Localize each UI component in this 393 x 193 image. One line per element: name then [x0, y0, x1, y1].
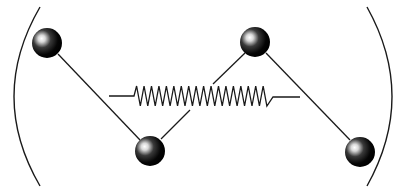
- sphere-3-icon: [240, 27, 270, 57]
- rod-2-spring: [161, 110, 190, 139]
- enclosing-brackets: [14, 7, 392, 186]
- mechanical-diagram: [0, 0, 393, 193]
- sphere-1-icon: [32, 28, 62, 58]
- spring: [109, 86, 300, 106]
- spheres: [32, 27, 375, 167]
- rod-1-2: [58, 54, 140, 140]
- sphere-2-icon: [135, 136, 165, 166]
- diagram-canvas: [0, 0, 393, 193]
- spring-coil: [109, 86, 300, 106]
- rod-3-spring: [213, 53, 245, 84]
- rods: [58, 53, 350, 140]
- sphere-4-icon: [345, 137, 375, 167]
